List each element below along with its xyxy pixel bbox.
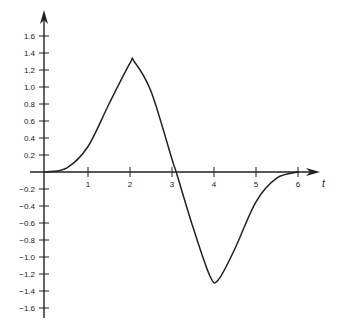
y-tick-label: −1.2 [19, 270, 35, 279]
y-tick-label: −1.0 [19, 253, 35, 262]
y-tick-label: 0.4 [24, 134, 36, 143]
x-tick-label: 6 [296, 180, 301, 189]
y-tick-label: 0.6 [24, 117, 36, 126]
y-tick-label: −0.8 [19, 236, 35, 245]
x-tick-label: 2 [128, 180, 133, 189]
x-tick-label: 5 [254, 180, 259, 189]
y-tick-label: −0.2 [19, 185, 35, 194]
y-tick-label: −1.6 [19, 304, 35, 313]
y-tick-label: 1.6 [24, 32, 36, 41]
x-tick-label: 4 [212, 180, 217, 189]
y-tick-label: 0.2 [24, 151, 36, 160]
y-tick-label: −0.6 [19, 219, 35, 228]
y-tick-label: −0.4 [19, 202, 35, 211]
x-tick-label: 3 [170, 180, 175, 189]
x-axis-label: t [322, 178, 326, 189]
x-tick-label: 1 [86, 180, 91, 189]
y-tick-label: 0.8 [24, 100, 36, 109]
y-tick-label: 1.0 [24, 83, 36, 92]
y-tick-label: 1.2 [24, 66, 36, 75]
y-axis [40, 10, 48, 318]
y-tick-label: −1.4 [19, 287, 35, 296]
chart: 1.61.41.21.00.80.60.40.2−0.2−0.4−0.6−0.8… [0, 0, 342, 332]
y-tick-label: 1.4 [24, 49, 36, 58]
